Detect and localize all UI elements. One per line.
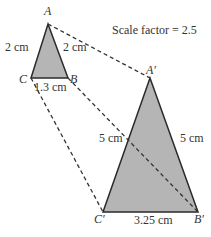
scale-factor-label: Scale factor = 2.5 [112, 23, 197, 37]
side-ac-length: 2 cm [5, 40, 29, 54]
vertex-b-label: B [70, 72, 78, 86]
side-c-prime-b-prime-length: 3.25 cm [134, 213, 173, 227]
vertex-c-label: C [19, 72, 28, 86]
vertex-a-prime-label: A′ [145, 63, 156, 77]
side-cb-length: 1.3 cm [34, 80, 67, 94]
side-ab-length: 2 cm [63, 40, 87, 54]
vertex-b-prime-label: B′ [194, 212, 204, 226]
vertex-c-prime-label: C′ [94, 212, 105, 226]
enlargement-diagram: Scale factor = 2.5 A C B 2 cm 2 cm 1.3 c… [0, 0, 211, 237]
side-a-prime-b-prime-length: 5 cm [180, 131, 204, 145]
dashed-line-c-c-prime [31, 78, 103, 212]
large-triangle [103, 78, 198, 212]
vertex-a-label: A [43, 4, 52, 18]
side-a-prime-c-prime-length: 5 cm [99, 131, 123, 145]
